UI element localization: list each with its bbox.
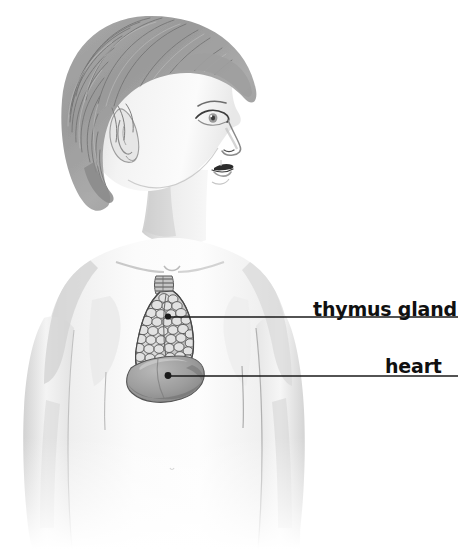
head-group [61,16,256,245]
label-thymus-gland: thymus gland [313,300,457,319]
leader-marker-thymus [165,313,171,319]
anatomy-figure: thymus gland heart [0,0,458,549]
label-heart: heart [385,357,442,376]
leader-marker-heart [165,372,172,379]
eye-highlight [210,115,212,117]
nostril [224,150,234,152]
nose-shadow [226,128,237,149]
torso-group [0,238,458,549]
upper-lip [214,164,233,170]
bottom-fade [0,300,458,549]
lower-lip [214,172,231,176]
anatomy-illustration [0,0,458,549]
chin-crease [212,179,229,184]
